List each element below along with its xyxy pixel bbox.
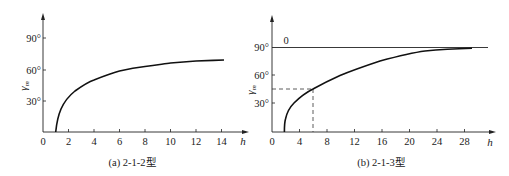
x-axis-arrow-icon — [242, 130, 249, 134]
x-tick-label: 14 — [216, 136, 227, 147]
x-tick-label: 8 — [142, 136, 147, 147]
svg-text:γm: γm — [17, 81, 31, 90]
x-axis-label: h — [487, 136, 493, 148]
x-tick-label: 16 — [377, 136, 388, 147]
x-tick-label: 8 — [324, 136, 329, 147]
x-tick-label: 4 — [297, 136, 303, 147]
y-axis-arrow-icon — [41, 13, 45, 20]
curve-a — [56, 60, 224, 132]
x-tick-label: 0 — [269, 136, 274, 147]
reference-line-label: 0 — [283, 35, 288, 46]
x-tick-label: 4 — [91, 136, 97, 147]
x-tick-label: 2 — [66, 136, 71, 147]
caption-b: (b) 2-1-3型 — [357, 156, 405, 169]
caption-a: (a) 2-1-2型 — [108, 156, 155, 169]
x-axis-label: h — [240, 135, 246, 147]
y-tick-label: 60° — [26, 65, 41, 76]
x-tick-label: 20 — [404, 136, 415, 147]
y-tick-label: 60° — [254, 70, 269, 81]
x-tick-label: 28 — [459, 136, 470, 147]
x-tick-label: 10 — [165, 136, 176, 147]
y-tick-label: 90° — [26, 33, 41, 44]
x-tick-label: 12 — [191, 136, 202, 147]
y-tick-label: 30° — [26, 96, 41, 107]
x-tick-label: 6 — [117, 136, 122, 147]
chart-a: 0 2 4 6 8 10 12 14 h 30° 60° 90° γm (a) … — [17, 13, 249, 169]
x-tick-label: 12 — [349, 136, 360, 147]
y-axis-label: γm — [17, 81, 31, 90]
y-axis-arrow-icon — [270, 15, 274, 22]
figure: 0 2 4 6 8 10 12 14 h 30° 60° 90° γm (a) … — [0, 0, 509, 176]
x-tick-label: 24 — [432, 136, 443, 147]
y-tick-label: 30° — [254, 98, 269, 109]
x-tick-label: 0 — [40, 136, 45, 147]
y-axis-label: γm — [244, 85, 258, 94]
svg-text:γm: γm — [244, 85, 258, 94]
x-axis-arrow-icon — [489, 130, 496, 134]
y-tick-label: 90° — [254, 42, 269, 53]
chart-b: 0 0 4 8 12 16 20 24 28 h 30° 60° 90° γm … — [244, 15, 496, 169]
curve-b — [284, 48, 472, 132]
